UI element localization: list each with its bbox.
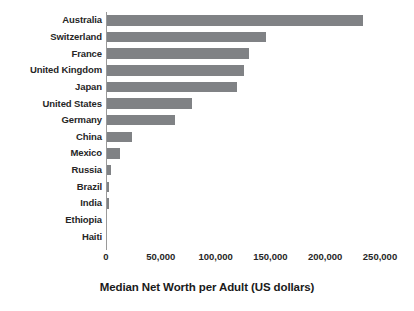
bar-united-states xyxy=(106,98,192,109)
value-axis-ticks: 050,000100,000150,000200,000250,000 xyxy=(0,252,414,268)
bar-united-kingdom xyxy=(106,65,244,76)
category-label-france: France xyxy=(0,49,102,59)
category-label-brazil: Brazil xyxy=(0,182,102,192)
bar-row xyxy=(106,165,380,176)
category-label-ethiopia: Ethiopia xyxy=(0,215,102,225)
bar-germany xyxy=(106,115,175,126)
bar-row xyxy=(106,15,380,26)
x-tick-label: 250,000 xyxy=(363,252,397,262)
bar-row xyxy=(106,182,380,193)
category-label-germany: Germany xyxy=(0,115,102,125)
bar-row xyxy=(106,132,380,143)
category-label-switzerland: Switzerland xyxy=(0,32,102,42)
category-label-mexico: Mexico xyxy=(0,148,102,158)
bar-france xyxy=(106,48,249,59)
category-label-united-kingdom: United Kingdom xyxy=(0,65,102,75)
x-tick-label: 100,000 xyxy=(198,252,232,262)
category-label-united-states: United States xyxy=(0,99,102,109)
category-label-india: India xyxy=(0,198,102,208)
x-tick-label: 50,000 xyxy=(146,252,175,262)
category-label-japan: Japan xyxy=(0,82,102,92)
bar-row xyxy=(106,32,380,43)
category-label-haiti: Haiti xyxy=(0,232,102,242)
x-axis-title: Median Net Worth per Adult (US dollars) xyxy=(0,281,414,293)
bar-row xyxy=(106,148,380,159)
bar-china xyxy=(106,132,132,143)
category-label-australia: Australia xyxy=(0,15,102,25)
bar-row xyxy=(106,215,380,226)
bar-row xyxy=(106,65,380,76)
x-tick-label: 200,000 xyxy=(308,252,342,262)
category-axis: AustraliaSwitzerlandFranceUnited Kingdom… xyxy=(0,12,102,245)
bar-australia xyxy=(106,15,363,26)
bar-mexico xyxy=(106,148,120,159)
bar-row xyxy=(106,48,380,59)
bar-row xyxy=(106,198,380,209)
bar-switzerland xyxy=(106,32,266,43)
bar-row xyxy=(106,82,380,93)
bar-japan xyxy=(106,82,237,93)
bar-row xyxy=(106,98,380,109)
x-tick-label: 0 xyxy=(103,252,108,262)
bar-chart: AustraliaSwitzerlandFranceUnited Kingdom… xyxy=(0,0,414,311)
category-label-russia: Russia xyxy=(0,165,102,175)
category-label-china: China xyxy=(0,132,102,142)
bar-row xyxy=(106,115,380,126)
value-axis-line xyxy=(106,12,107,250)
plot-area xyxy=(106,12,380,245)
x-tick-label: 150,000 xyxy=(253,252,287,262)
bar-row xyxy=(106,231,380,242)
